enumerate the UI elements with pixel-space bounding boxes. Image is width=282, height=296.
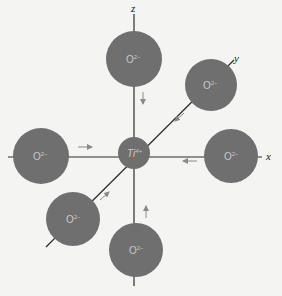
z-axis-label: z xyxy=(130,2,136,14)
central-ion: Ti4+ xyxy=(118,137,150,169)
ligand-right: O2− xyxy=(204,129,258,183)
x-axis-label: x xyxy=(265,150,271,162)
ligand-left: O2− xyxy=(13,128,69,184)
ligand-upper-right: O2− xyxy=(185,59,237,111)
ligand-top: O2− xyxy=(106,31,162,87)
ligand-lower-left: O2− xyxy=(46,192,100,246)
ligand-bottom: O2− xyxy=(109,223,163,277)
arrow-up-right-icon xyxy=(100,192,109,200)
octahedral-diagram: z x y O2− O2− O2− O2− O2− O2− Ti4+ xyxy=(0,0,282,296)
y-axis-label: y xyxy=(233,52,239,64)
